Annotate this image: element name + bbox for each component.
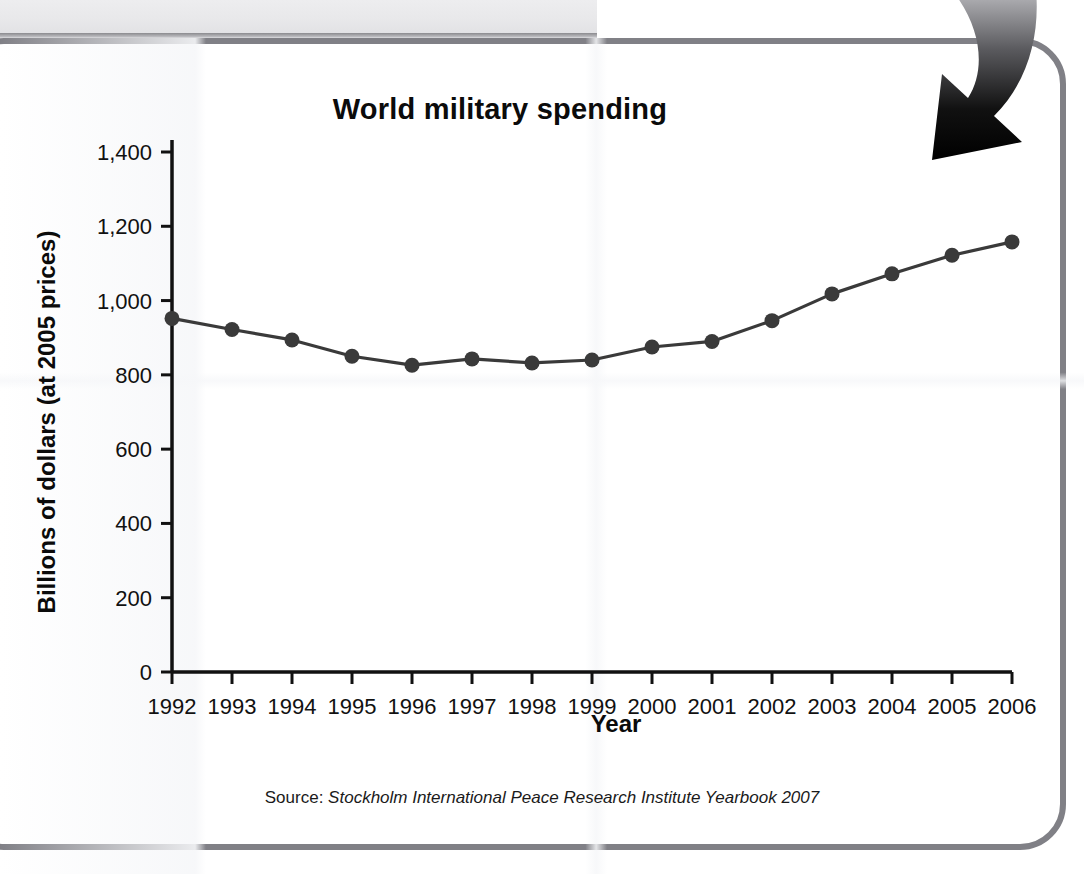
source-caption: Source: Stockholm International Peace Re…: [0, 788, 1084, 808]
y-axis-tick-label: 0: [140, 660, 152, 685]
series-line: [172, 242, 1012, 365]
x-axis-tick-label: 1996: [388, 694, 437, 719]
x-axis-tick-label: 2005: [928, 694, 977, 719]
x-axis-tick-label: 1998: [508, 694, 557, 719]
x-axis-tick-label: 2006: [988, 694, 1037, 719]
y-axis-tick-label: 1,200: [97, 214, 152, 239]
gray-header-band: [0, 0, 597, 33]
x-axis-tick-label: 1993: [208, 694, 257, 719]
x-axis-tick-label: 1995: [328, 694, 377, 719]
x-axis-tick-label: 2001: [688, 694, 737, 719]
data-point-marker: [405, 358, 420, 373]
x-axis-tick-label: 2002: [748, 694, 797, 719]
data-point-marker: [645, 340, 660, 355]
data-point-marker: [945, 248, 960, 263]
data-point-marker: [525, 355, 540, 370]
data-point-marker: [765, 313, 780, 328]
data-point-marker: [345, 349, 360, 364]
x-axis-tick-label: 2003: [808, 694, 857, 719]
y-axis-tick-label: 1,000: [97, 289, 152, 314]
x-axis-tick-label: 1994: [268, 694, 317, 719]
data-point-marker: [465, 351, 480, 366]
data-point-marker: [285, 332, 300, 347]
y-axis-tick-label: 400: [115, 511, 152, 536]
y-axis-tick-label: 1,400: [97, 140, 152, 165]
data-point-marker: [705, 334, 720, 349]
x-axis-tick-label: 1992: [148, 694, 197, 719]
y-axis-tick-label: 200: [115, 586, 152, 611]
chart-container: World military spending Billions of doll…: [0, 38, 1084, 838]
data-point-marker: [165, 311, 180, 326]
y-axis-tick-label: 800: [115, 363, 152, 388]
source-label: Source:: [265, 788, 324, 807]
figure-root: World military spending Billions of doll…: [0, 0, 1084, 874]
x-axis-tick-label: 1999: [568, 694, 617, 719]
data-point-marker: [885, 266, 900, 281]
data-point-marker: [825, 286, 840, 301]
y-axis-tick-label: 600: [115, 437, 152, 462]
line-chart-plot: 02004006008001,0001,2001,400199219931994…: [0, 38, 1084, 738]
x-axis-tick-label: 2004: [868, 694, 917, 719]
data-point-marker: [1005, 234, 1020, 249]
x-axis-tick-label: 1997: [448, 694, 497, 719]
x-axis-tick-label: 2000: [628, 694, 677, 719]
source-title: Stockholm International Peace Research I…: [328, 788, 819, 807]
data-point-marker: [225, 322, 240, 337]
data-point-marker: [585, 353, 600, 368]
